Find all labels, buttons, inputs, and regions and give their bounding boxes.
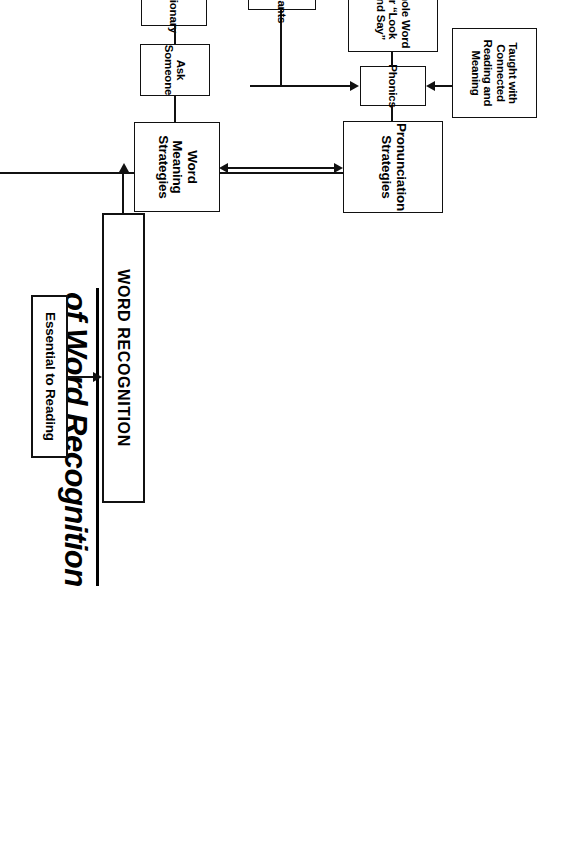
connector-dict2-ask2 [174, 26, 176, 44]
node-pronunciation-strategies[interactable]: Pronunciation Strategies [343, 121, 443, 213]
node-word-recognition[interactable]: WORD RECOGNITION [102, 213, 145, 503]
node-essential-to-reading[interactable]: Essential to Reading [31, 295, 68, 458]
flowchart-canvas: of Word Recognition WORD RECOGNITION Ess… [0, 0, 565, 843]
connector-pronunciation-word-meaning [228, 167, 334, 169]
arrowhead-essential-to-root [93, 372, 102, 382]
node-dictionary-word-meaning[interactable]: Dictionary [141, 0, 207, 26]
connector-consonants-to-phonics-v [250, 85, 282, 87]
node-consonants[interactable]: Consonants [248, 0, 316, 10]
title-underline [96, 288, 99, 586]
connector-ask2-wordmeaning [174, 96, 176, 122]
connector-phonics-pronunciation [391, 106, 393, 121]
node-phonics[interactable]: Phonics [360, 66, 426, 106]
arrowhead-up-pronunciation [334, 163, 343, 173]
arrowhead-root-trunk [119, 163, 129, 172]
connector-essential-to-root [67, 376, 93, 378]
connector-taught-elbow-v [435, 85, 452, 87]
arrowhead-down-word-meaning [219, 163, 228, 173]
node-taught-with-connected-reading[interactable]: Taught with Connected Reading and Meanin… [452, 28, 537, 118]
connector-wholeword-phonics [391, 52, 393, 66]
trunk-root-left [122, 172, 124, 214]
connector-consonants-phonics-riser [282, 85, 350, 87]
node-ask-someone-word-meaning[interactable]: Ask Someone [140, 44, 210, 96]
node-whole-word-look-and-say[interactable]: Whole Word or “Look and Say” [348, 0, 438, 52]
arrowhead-consonants-to-phonics [350, 81, 359, 91]
node-word-meaning-strategies[interactable]: Word Meaning Strategies [134, 122, 220, 212]
arrowhead-taught-to-phonics [426, 81, 435, 91]
diagram-page: of Word Recognition WORD RECOGNITION Ess… [0, 0, 565, 843]
